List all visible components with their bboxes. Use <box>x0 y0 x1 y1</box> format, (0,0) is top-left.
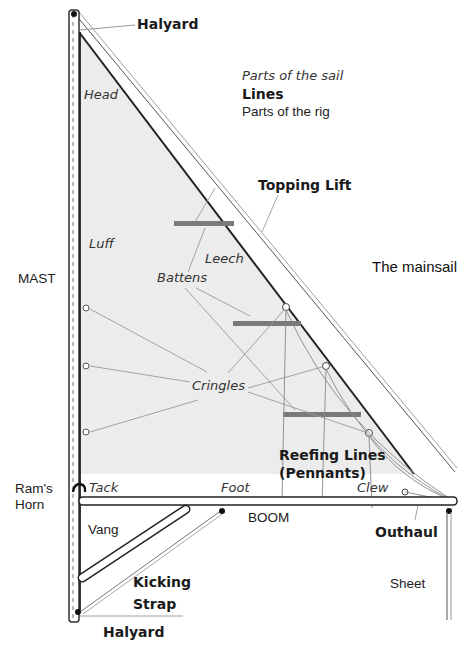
mainsail-diagram <box>0 0 474 651</box>
label-head: Head <box>84 88 118 103</box>
label-topping-lift: Topping Lift <box>258 177 352 193</box>
label-strap: Strap <box>133 596 176 612</box>
label-rams-horn-2: Horn <box>15 497 44 513</box>
label-foot: Foot <box>221 481 249 496</box>
label-battens: Battens <box>157 271 207 286</box>
cringle-leech-1 <box>283 304 290 311</box>
mast <box>69 10 79 622</box>
label-reefing-lines: Reefing Lines <box>279 447 386 463</box>
label-cringles: Cringles <box>192 379 245 394</box>
label-leech: Leech <box>205 252 244 267</box>
legend-sail-parts: Parts of the sail <box>242 69 343 84</box>
label-boom: BOOM <box>248 510 289 526</box>
label-sheet: Sheet <box>390 576 425 592</box>
label-rams-horn-1: Ram's <box>15 481 53 497</box>
label-kicking: Kicking <box>133 574 191 590</box>
batten-1 <box>174 221 234 226</box>
vang <box>77 504 191 584</box>
cringle-leech-2 <box>323 363 330 370</box>
boom <box>79 497 457 505</box>
halyard-leader <box>80 25 135 30</box>
mast-head-sheave <box>71 11 77 17</box>
label-tack: Tack <box>89 481 118 496</box>
label-halyard-bottom: Halyard <box>103 624 164 640</box>
label-luff: Luff <box>89 237 114 252</box>
label-pennants: (Pennants) <box>279 465 366 481</box>
label-outhaul: Outhaul <box>375 524 438 540</box>
label-halyard-top: Halyard <box>137 16 198 32</box>
batten-2 <box>233 321 301 326</box>
legend-lines: Lines <box>242 86 284 102</box>
label-clew: Clew <box>357 481 388 496</box>
kicking-strap-boom-pin <box>219 508 225 514</box>
cringle-luff-1 <box>83 305 89 311</box>
diagram-title: The mainsail <box>372 258 457 275</box>
topping-lift-leader-2 <box>262 195 278 232</box>
kicking-strap-mast-pin <box>75 609 81 615</box>
cringle-luff-2 <box>83 363 89 369</box>
batten-3 <box>283 412 361 417</box>
label-mast: MAST <box>18 271 56 287</box>
label-vang: Vang <box>88 522 119 538</box>
cringle-luff-3 <box>83 429 89 435</box>
legend-rig-parts: Parts of the rig <box>242 104 330 120</box>
